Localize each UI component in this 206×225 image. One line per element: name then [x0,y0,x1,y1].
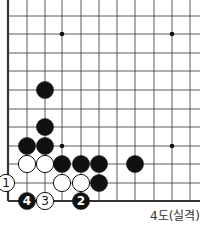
black-stone [53,155,70,172]
white-stone: 1 [0,174,15,191]
black-stone [126,155,143,172]
white-stone [36,155,53,172]
black-stone: 2 [72,192,89,209]
star-point [60,32,65,37]
black-stone [36,118,53,135]
black-stone [18,137,35,154]
white-stone [18,155,35,172]
move-number: 2 [77,194,85,208]
black-stone [36,137,53,154]
move-number: 1 [2,176,10,190]
star-point [170,32,175,37]
black-stone [90,174,107,191]
move-number: 4 [23,194,31,208]
move-number: 3 [41,194,49,208]
diagram-caption: 4도(실격) [150,206,200,223]
star-point [60,144,65,149]
black-stone [90,155,107,172]
black-stone [36,81,53,98]
go-board: 1432 [0,0,206,225]
white-stone: 3 [36,192,53,209]
black-stone: 4 [18,192,35,209]
black-stone [72,155,89,172]
white-stone [53,174,70,191]
white-stone [72,174,89,191]
star-point [170,144,175,149]
